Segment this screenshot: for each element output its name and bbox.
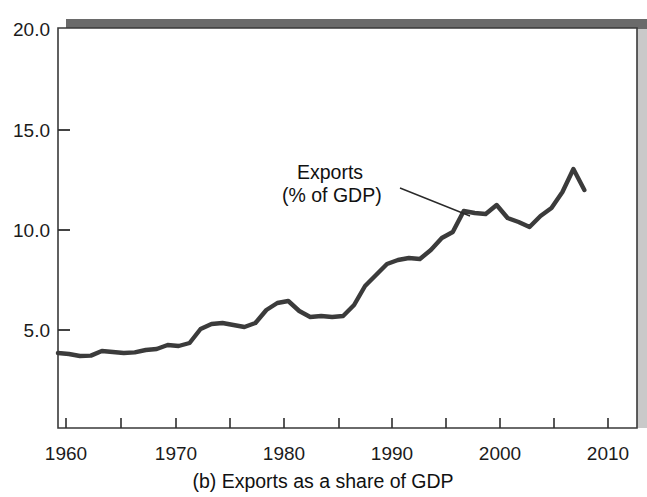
y-tick-label-5: 5.0 — [24, 320, 50, 341]
x-tick-label-2010: 2010 — [587, 443, 629, 464]
y-tick-label-15: 15.0 — [13, 120, 50, 141]
annotation-line-2: (% of GDP) — [282, 184, 382, 206]
exports-share-of-gdp-line-chart: 20.0 15.0 10.0 5.0 1960 1970 1980 1990 2… — [0, 0, 647, 497]
x-tick-label-1990: 1990 — [371, 443, 413, 464]
x-tick-label-1960: 1960 — [45, 443, 87, 464]
y-tick-label-20: 20.0 — [13, 19, 50, 40]
figure-caption: (b) Exports as a share of GDP — [192, 470, 453, 492]
annotation-line-1: Exports — [297, 161, 363, 183]
plot-area-background — [58, 28, 637, 428]
x-tick-label-1980: 1980 — [263, 443, 305, 464]
x-tick-label-1970: 1970 — [155, 443, 197, 464]
x-tick-label-2000: 2000 — [479, 443, 521, 464]
x-axis-tick-labels: 1960 1970 1980 1990 2000 2010 — [45, 443, 629, 464]
figure-panel-b: 20.0 15.0 10.0 5.0 1960 1970 1980 1990 2… — [0, 0, 647, 497]
y-tick-label-10: 10.0 — [13, 220, 50, 241]
y-axis-tick-labels: 20.0 15.0 10.0 5.0 — [13, 19, 50, 341]
